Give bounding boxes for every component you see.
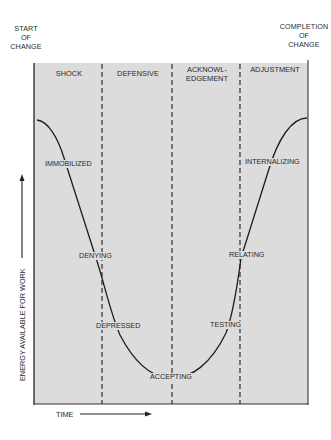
stage-relating: RELATING <box>228 251 265 259</box>
y-axis-arrowhead-icon <box>20 174 25 181</box>
stage-accepting: ACCEPTING <box>149 373 193 381</box>
stage-internalizing: INTERNALIZING <box>244 158 301 166</box>
phase-acknowledgement-line-2: EDGEMENT <box>174 74 240 83</box>
phase-adjustment: ADJUSTMENT <box>242 65 308 74</box>
stage-immobilized: IMMOBILIZED <box>44 160 93 168</box>
x-axis-arrowhead-icon <box>145 412 152 417</box>
stage-depressed: DEPRESSED <box>95 322 141 330</box>
phase-defensive: DEFENSIVE <box>104 69 172 78</box>
phase-acknowledgement: ACKNOWL- EDGEMENT <box>174 65 240 83</box>
phase-shock: SHOCK <box>36 69 102 78</box>
y-axis-label: ENERGY AVAILABLE FOR WORK <box>18 268 27 381</box>
stage-testing: TESTING <box>209 321 242 329</box>
phase-acknowledgement-line-1: ACKNOWL- <box>174 65 240 74</box>
diagram-panel <box>34 63 308 404</box>
x-axis-label: TIME <box>56 410 73 419</box>
stage-denying: DENYING <box>78 252 113 260</box>
